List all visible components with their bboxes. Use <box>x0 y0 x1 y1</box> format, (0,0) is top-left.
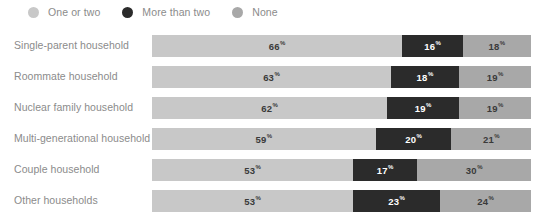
segment-value: 59% <box>256 134 273 145</box>
segment-value: 62% <box>261 103 278 114</box>
row-label: Roommate household <box>0 70 152 83</box>
segment-value: 20% <box>405 134 422 145</box>
chart-row: Single-parent household 66% 16% 18% <box>0 30 558 61</box>
segment-value: 24% <box>477 196 494 207</box>
legend-label: One or two <box>48 6 100 18</box>
segment-value: 19% <box>487 103 504 114</box>
segment-value: 19% <box>415 103 432 114</box>
segment-value: 19% <box>487 72 504 83</box>
bar-segment-one-or-two[interactable]: 59% <box>152 128 376 150</box>
bar-segment-one-or-two[interactable]: 53% <box>152 159 353 181</box>
segment-value: 30% <box>466 165 483 176</box>
circle-icon <box>232 7 243 18</box>
legend-item-none[interactable]: None <box>232 6 278 18</box>
chart-row: Other households 53% 23% 24% <box>0 185 558 216</box>
legend-label: None <box>252 6 278 18</box>
segment-value: 53% <box>244 165 261 176</box>
bar-segment-one-or-two[interactable]: 63% <box>152 66 391 88</box>
segment-value: 18% <box>489 41 506 52</box>
bar-segment-one-or-two[interactable]: 62% <box>152 97 387 119</box>
bar-segment-one-or-two[interactable]: 66% <box>152 35 402 57</box>
bar-segment-one-or-two[interactable]: 53% <box>152 190 353 212</box>
bar-segment-none[interactable]: 21% <box>451 128 531 150</box>
segment-value: 63% <box>263 72 280 83</box>
stacked-bar-chart: One or two More than two None Single-par… <box>0 0 558 217</box>
segment-value: 53% <box>244 196 261 207</box>
row-label: Single-parent household <box>0 39 152 52</box>
bar-segment-none[interactable]: 30% <box>417 159 531 181</box>
stacked-bar: 53% 17% 30% <box>152 159 531 181</box>
chart-row: Roommate household 63% 18% 19% <box>0 61 558 92</box>
row-label: Multi-generational household <box>0 132 152 145</box>
segment-value: 18% <box>417 72 434 83</box>
stacked-bar: 59% 20% 21% <box>152 128 531 150</box>
row-label: Other households <box>0 194 152 207</box>
bar-segment-more-than-two[interactable]: 23% <box>353 190 440 212</box>
bar-segment-more-than-two[interactable]: 18% <box>391 66 459 88</box>
stacked-bar: 66% 16% 18% <box>152 35 531 57</box>
bar-segment-more-than-two[interactable]: 20% <box>376 128 452 150</box>
row-label: Nuclear family household <box>0 101 152 114</box>
bar-segment-none[interactable]: 24% <box>440 190 531 212</box>
stacked-bar: 62% 19% 19% <box>152 97 531 119</box>
chart-legend: One or two More than two None <box>28 4 300 20</box>
bar-segment-more-than-two[interactable]: 17% <box>353 159 417 181</box>
chart-row: Nuclear family household 62% 19% 19% <box>0 92 558 123</box>
bar-segment-none[interactable]: 18% <box>463 35 531 57</box>
stacked-bar: 53% 23% 24% <box>152 190 531 212</box>
segment-value: 66% <box>269 41 286 52</box>
segment-value: 17% <box>377 165 394 176</box>
segment-value: 23% <box>388 196 405 207</box>
legend-item-more-than-two[interactable]: More than two <box>122 6 210 18</box>
bar-segment-none[interactable]: 19% <box>459 97 531 119</box>
chart-rows: Single-parent household 66% 16% 18% Room… <box>0 30 558 216</box>
segment-value: 21% <box>483 134 500 145</box>
row-label: Couple household <box>0 163 152 176</box>
stacked-bar: 63% 18% 19% <box>152 66 531 88</box>
legend-label: More than two <box>142 6 210 18</box>
bar-segment-none[interactable]: 19% <box>459 66 531 88</box>
circle-icon <box>28 7 39 18</box>
chart-row: Couple household 53% 17% 30% <box>0 154 558 185</box>
chart-row: Multi-generational household 59% 20% 21% <box>0 123 558 154</box>
bar-segment-more-than-two[interactable]: 19% <box>387 97 459 119</box>
segment-value: 16% <box>424 41 441 52</box>
circle-icon <box>122 7 133 18</box>
bar-segment-more-than-two[interactable]: 16% <box>402 35 463 57</box>
legend-item-one-or-two[interactable]: One or two <box>28 6 100 18</box>
